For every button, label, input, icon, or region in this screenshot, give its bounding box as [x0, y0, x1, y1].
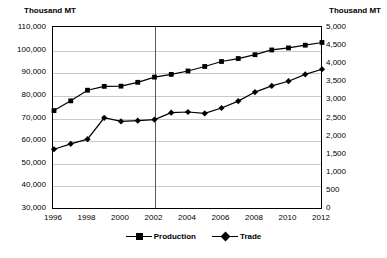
- data-point-production: [320, 40, 325, 45]
- y-tick-label-left: 60,000: [2, 135, 46, 144]
- x-tick-label: 1996: [38, 213, 68, 222]
- data-point-trade: [235, 98, 241, 104]
- legend-item: Trade: [212, 231, 261, 240]
- x-tick-label: 2000: [105, 213, 135, 222]
- data-point-production: [303, 43, 308, 48]
- data-point-production: [219, 59, 224, 64]
- data-point-trade: [202, 110, 208, 116]
- y-tick-label-left: 90,000: [2, 67, 46, 76]
- y-tick-label-right: 4,500: [326, 40, 366, 49]
- y-tick-label-left: 40,000: [2, 180, 46, 189]
- data-point-production: [152, 75, 157, 80]
- y-tick-label-left: 80,000: [2, 90, 46, 99]
- data-point-trade: [218, 105, 224, 111]
- data-point-production: [269, 48, 274, 53]
- x-tick-label: 1998: [72, 213, 102, 222]
- data-point-trade: [185, 109, 191, 115]
- y-tick-label-left: 50,000: [2, 158, 46, 167]
- data-point-production: [186, 69, 191, 74]
- chart-container: Thousand MT Thousand MT 30,00040,00050,0…: [0, 0, 387, 258]
- data-point-trade: [285, 78, 291, 84]
- plot-area: [52, 26, 322, 209]
- y-tick-label-left: 30,000: [2, 203, 46, 212]
- legend-marker-square-icon: [126, 232, 152, 241]
- legend-label: Trade: [240, 232, 261, 241]
- y-tick-label-right: 3,500: [326, 76, 366, 85]
- series-lines: [53, 27, 323, 210]
- x-tick-label: 2012: [306, 213, 336, 222]
- series-line-production: [54, 42, 322, 110]
- legend-item: Production: [126, 231, 196, 240]
- data-point-trade: [168, 110, 174, 116]
- right-axis-title: Thousand MT: [329, 6, 381, 15]
- data-point-production: [52, 108, 57, 113]
- x-tick-label: 2010: [273, 213, 303, 222]
- data-point-production: [102, 84, 107, 89]
- data-point-production: [85, 88, 90, 93]
- y-tick-label-left: 110,000: [2, 22, 46, 31]
- data-point-trade: [51, 146, 57, 152]
- data-point-trade: [302, 71, 308, 77]
- data-point-production: [119, 84, 124, 89]
- chart-legend: ProductionTrade: [0, 231, 387, 241]
- data-point-production: [202, 64, 207, 69]
- y-tick-label-right: 4,000: [326, 58, 366, 67]
- data-point-trade: [118, 118, 124, 124]
- x-tick-label: 2002: [139, 213, 169, 222]
- x-tick-label: 2008: [239, 213, 269, 222]
- y-tick-label-left: 100,000: [2, 45, 46, 54]
- data-point-trade: [269, 83, 275, 89]
- y-tick-label-right: 2,500: [326, 113, 366, 122]
- y-tick-label-left: 70,000: [2, 113, 46, 122]
- data-point-production: [68, 98, 73, 103]
- legend-label: Production: [154, 232, 196, 241]
- y-tick-label-right: 500: [326, 185, 366, 194]
- data-point-production: [236, 56, 241, 61]
- data-point-production: [135, 80, 140, 85]
- y-tick-label-right: 1,000: [326, 167, 366, 176]
- y-tick-label-right: 1,500: [326, 149, 366, 158]
- legend-marker-diamond-icon: [212, 232, 238, 241]
- x-tick-label: 2006: [206, 213, 236, 222]
- left-axis-title: Thousand MT: [24, 6, 76, 15]
- data-point-production: [286, 46, 291, 51]
- x-tick-label: 2004: [172, 213, 202, 222]
- data-point-production: [253, 52, 258, 57]
- data-point-trade: [252, 89, 258, 95]
- y-tick-label-right: 5,000: [326, 22, 366, 31]
- data-point-trade: [135, 118, 141, 124]
- data-point-trade: [151, 116, 157, 122]
- y-tick-label-right: 2,000: [326, 131, 366, 140]
- y-tick-label-right: 0: [326, 203, 366, 212]
- data-point-production: [169, 72, 174, 77]
- data-point-trade: [68, 141, 74, 147]
- data-point-trade: [319, 66, 325, 72]
- y-tick-label-right: 3,000: [326, 94, 366, 103]
